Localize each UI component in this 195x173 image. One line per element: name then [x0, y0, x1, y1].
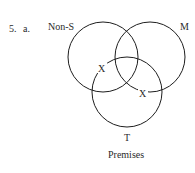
label-t: T — [124, 133, 130, 143]
x-mark-2: X — [139, 88, 147, 99]
venn-diagram: X X — [0, 0, 195, 173]
caption-premises: Premises — [108, 150, 144, 160]
x-mark-1: X — [98, 63, 106, 74]
